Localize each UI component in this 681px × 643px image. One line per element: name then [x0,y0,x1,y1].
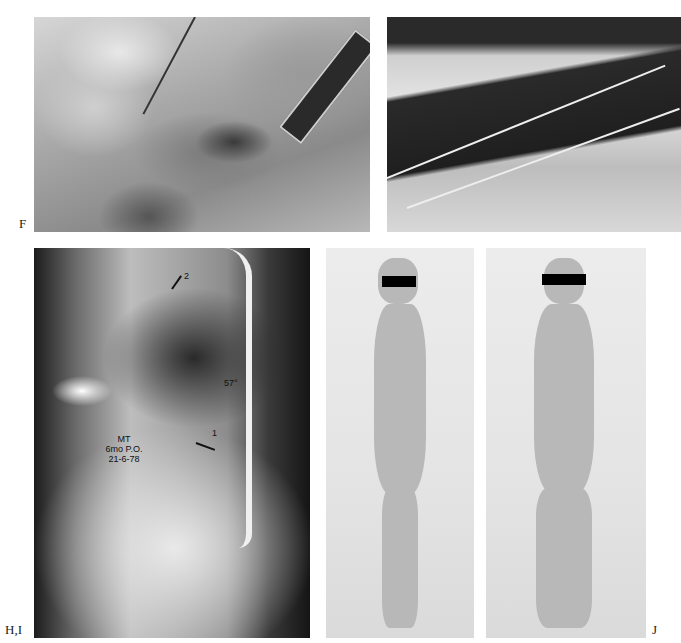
patient-legs [536,488,592,628]
retractor [279,29,370,144]
fixation-wire [407,108,680,209]
surgical-instrument [142,17,195,115]
marker-lower: 1 [212,428,217,438]
panel-label-f: F [19,216,26,232]
radiograph-annotation: MT 6mo P.O. 21-6-78 [94,434,154,464]
panel-label-j: J [652,622,657,638]
eye-censor-bar [382,276,416,287]
annotation-patient-initials: MT [94,434,154,444]
annotation-date: 21-6-78 [94,454,154,464]
panel-j-anterior-photo [486,248,646,638]
panel-f-intraoperative-photo [34,17,370,232]
marker-upper: 2 [184,271,189,281]
panel-label-hi: H,I [5,622,22,638]
panel-j-lateral-photo [326,248,474,638]
patient-torso [374,304,426,494]
annotation-postop-interval: 6mo P.O. [94,444,154,454]
fixation-wire [387,65,666,179]
marker-angle: 57° [224,378,238,388]
spinal-instrumentation [224,248,252,548]
patient-torso [534,304,594,494]
panel-hi-radiograph: 2 57° 1 MT 6mo P.O. 21-6-78 [34,248,310,638]
eye-censor-bar [542,274,586,285]
panel-g-spinal-fusion-photo [387,17,681,232]
measurement-marker [196,442,215,451]
measurement-marker [171,275,182,289]
patient-legs [382,488,418,628]
